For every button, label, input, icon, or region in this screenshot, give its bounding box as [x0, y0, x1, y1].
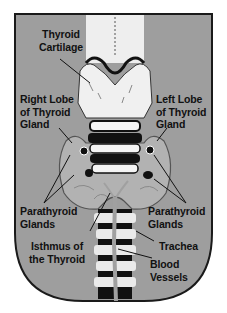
label-isthmus: Isthmus of the Thyroid — [22, 240, 92, 265]
cricoid-rings-shape — [88, 121, 142, 173]
label-thyroid-cartilage: Thyroid Cartilage — [26, 28, 96, 53]
label-right-lobe: Right Lobe of Thyroid Gland — [20, 93, 74, 131]
parathyroid-lower-right — [85, 169, 93, 177]
label-parathyroid-right: Parathyroid Glands — [20, 205, 77, 230]
label-left-lobe: Left Lobe of Thyroid Gland — [156, 93, 206, 131]
parathyroid-upper-left — [146, 146, 154, 154]
parathyroid-lower-left — [143, 171, 153, 179]
blood-vessel-shape — [114, 199, 116, 301]
label-blood-vessels: Blood Vessels — [150, 258, 188, 283]
label-trachea: Trachea — [159, 240, 198, 253]
label-parathyroid-left: Parathyroid Glands — [148, 205, 205, 230]
parathyroid-upper-right — [80, 147, 88, 155]
